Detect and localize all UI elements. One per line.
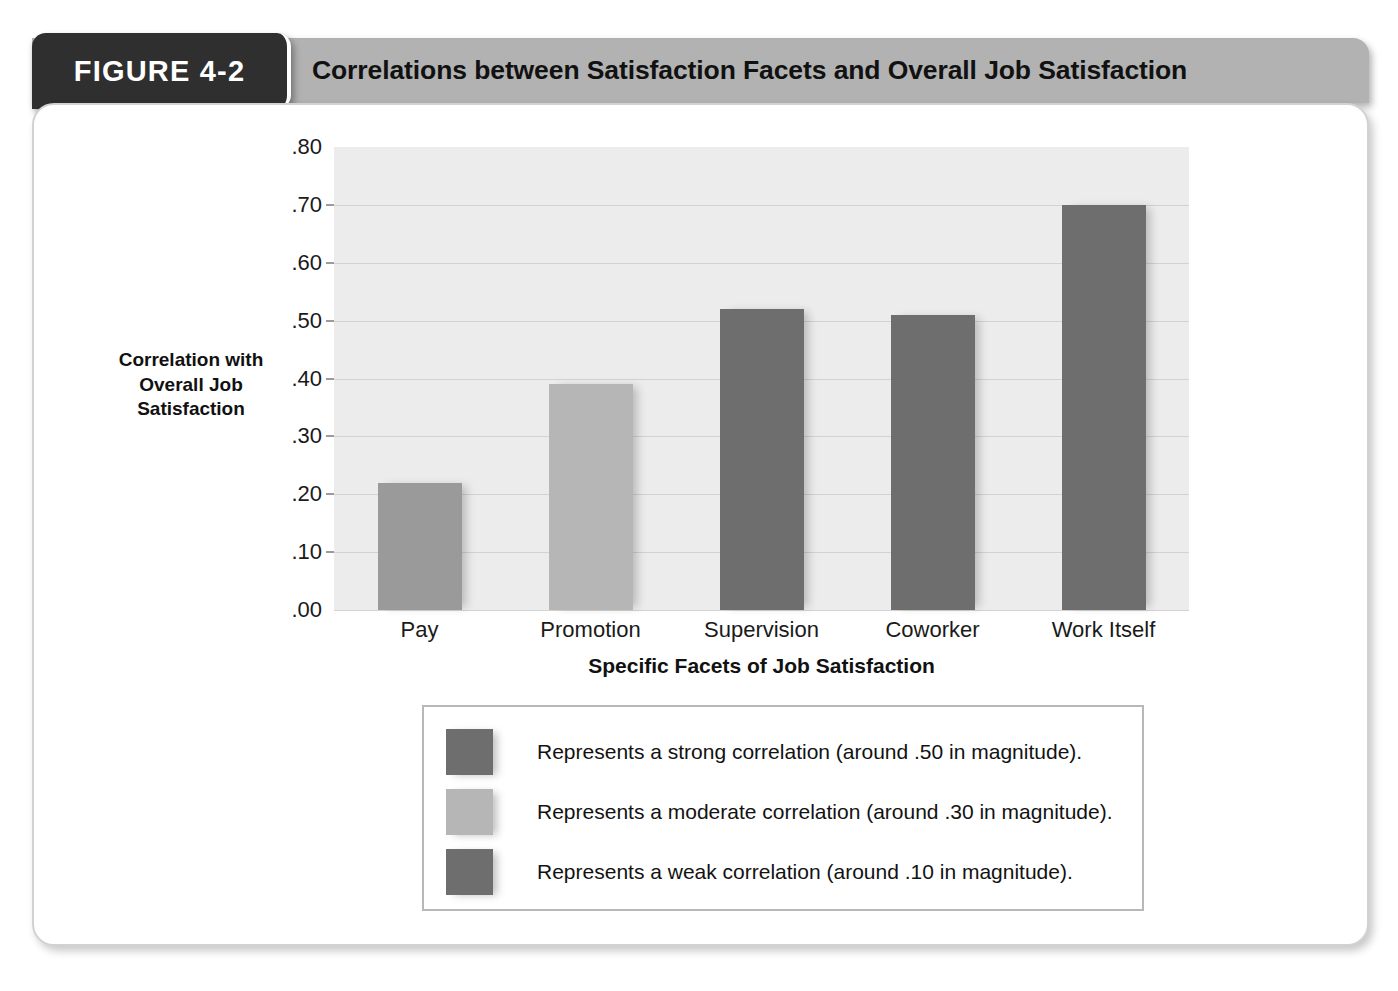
- legend-label: Represents a strong correlation (around …: [537, 740, 1082, 764]
- legend-swatch: [446, 729, 493, 775]
- x-axis-title: Specific Facets of Job Satisfaction: [334, 654, 1189, 678]
- bars: [334, 147, 1189, 610]
- figure-number-label: FIGURE 4-2: [74, 55, 246, 88]
- bar: [891, 315, 975, 610]
- legend-row: Represents a weak correlation (around .1…: [446, 849, 1073, 895]
- plot-region: [334, 147, 1189, 610]
- y-axis-tick-label: .50: [291, 308, 322, 334]
- y-axis-tick-label: .70: [291, 192, 322, 218]
- legend-swatch: [446, 789, 493, 835]
- bar: [1062, 205, 1146, 610]
- chart-area: Correlation withOverall JobSatisfaction …: [34, 105, 1371, 948]
- y-axis-ticks: .80.70.60.50.40.30.20.10.00: [266, 147, 332, 610]
- x-axis-category-label: Supervision: [704, 617, 819, 643]
- chart-legend: Represents a strong correlation (around …: [422, 705, 1144, 911]
- y-axis-title: Correlation withOverall JobSatisfaction: [96, 348, 286, 422]
- y-axis-tick-label: .80: [291, 134, 322, 160]
- bar: [720, 309, 804, 610]
- figure-number-badge: FIGURE 4-2: [32, 33, 291, 109]
- figure-title: Correlations between Satisfaction Facets…: [312, 38, 1187, 103]
- x-axis-category-label: Coworker: [885, 617, 979, 643]
- source-note: [28, 963, 1378, 985]
- bar: [378, 483, 462, 610]
- x-axis-category-labels: PayPromotionSupervisionCoworkerWork Itse…: [334, 617, 1189, 651]
- x-axis-category-label: Pay: [401, 617, 439, 643]
- bar: [549, 384, 633, 610]
- y-axis-title-line: Overall Job: [96, 373, 286, 398]
- legend-swatch: [446, 849, 493, 895]
- y-axis-tick-label: .10: [291, 539, 322, 565]
- y-axis-tick-label: .30: [291, 423, 322, 449]
- gridline: [334, 610, 1189, 611]
- legend-row: Represents a strong correlation (around …: [446, 729, 1082, 775]
- y-axis-tick-label: .60: [291, 250, 322, 276]
- y-axis-tick-label: .00: [291, 597, 322, 623]
- x-axis-category-label: Promotion: [540, 617, 640, 643]
- y-axis-tick-label: .40: [291, 366, 322, 392]
- legend-label: Represents a weak correlation (around .1…: [537, 860, 1073, 884]
- legend-label: Represents a moderate correlation (aroun…: [537, 800, 1113, 824]
- figure-card: Correlation withOverall JobSatisfaction …: [32, 103, 1369, 946]
- legend-row: Represents a moderate correlation (aroun…: [446, 789, 1113, 835]
- x-axis-category-label: Work Itself: [1052, 617, 1156, 643]
- y-axis-title-line: Correlation with: [96, 348, 286, 373]
- y-axis-tick-label: .20: [291, 481, 322, 507]
- y-axis-title-line: Satisfaction: [96, 397, 286, 422]
- figure-container: FIGURE 4-2 Correlations between Satisfac…: [0, 0, 1398, 991]
